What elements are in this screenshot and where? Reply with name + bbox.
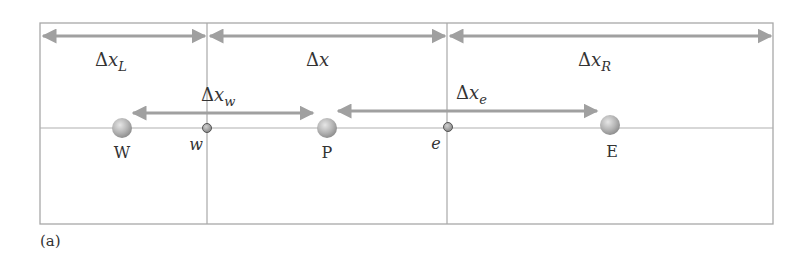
node-W-label: W	[114, 143, 131, 162]
dx-R-label: ΔxR	[578, 49, 611, 74]
node-W-sphere	[112, 118, 132, 138]
node-P-label: P	[322, 143, 333, 162]
dx-e-label: Δxe	[456, 82, 487, 107]
finite-volume-diagram: ΔxL Δx ΔxR Δxw Δxe W w P e E	[0, 0, 807, 262]
dx-L-label: ΔxL	[95, 49, 127, 74]
node-P-sphere	[317, 118, 337, 138]
domain-frame	[40, 23, 773, 224]
node-E-label: E	[606, 142, 618, 161]
dx-label: Δx	[306, 49, 329, 70]
node-E-sphere	[600, 115, 620, 135]
figure-caption: (a)	[40, 232, 61, 250]
face-e-node	[444, 123, 453, 132]
face-e-label: e	[431, 134, 440, 153]
dx-w-label: Δxw	[201, 84, 235, 109]
face-w-node	[203, 124, 212, 133]
face-w-label: w	[189, 135, 203, 154]
